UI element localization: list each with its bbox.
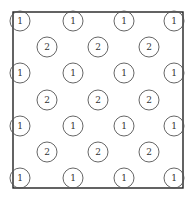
node-label: 2 (44, 95, 50, 105)
node-2: 2 (139, 37, 159, 57)
node-label: 2 (146, 147, 152, 157)
node-1: 1 (164, 11, 184, 31)
node-1: 1 (63, 168, 83, 188)
node-1: 1 (63, 116, 83, 136)
node-1: 1 (164, 116, 184, 136)
node-label: 2 (95, 147, 101, 157)
node-label: 2 (44, 42, 50, 52)
node-label: 1 (121, 173, 127, 183)
node-label: 1 (17, 173, 23, 183)
node-2: 2 (139, 142, 159, 162)
node-label: 2 (146, 95, 152, 105)
node-2: 2 (88, 142, 108, 162)
node-label: 1 (171, 173, 177, 183)
node-1: 1 (114, 116, 134, 136)
node-label: 1 (17, 16, 23, 26)
node-label: 1 (171, 121, 177, 131)
node-1: 1 (114, 168, 134, 188)
node-2: 2 (88, 37, 108, 57)
node-label: 1 (171, 16, 177, 26)
node-1: 1 (114, 11, 134, 31)
node-label: 1 (17, 121, 23, 131)
node-label: 2 (44, 147, 50, 157)
node-label: 1 (171, 68, 177, 78)
node-2: 2 (37, 142, 57, 162)
node-label: 1 (121, 68, 127, 78)
node-label: 1 (121, 16, 127, 26)
node-label: 1 (121, 121, 127, 131)
lattice-diagram: 1111222111122211112221111 (0, 0, 195, 201)
node-1: 1 (164, 63, 184, 83)
node-label: 1 (70, 68, 76, 78)
node-group: 1111222111122211112221111 (10, 11, 184, 188)
node-2: 2 (37, 37, 57, 57)
node-label: 1 (70, 121, 76, 131)
node-label: 1 (17, 68, 23, 78)
node-2: 2 (139, 90, 159, 110)
node-2: 2 (88, 90, 108, 110)
node-label: 2 (95, 95, 101, 105)
node-label: 1 (70, 173, 76, 183)
node-2: 2 (37, 90, 57, 110)
node-label: 1 (70, 16, 76, 26)
node-1: 1 (114, 63, 134, 83)
node-1: 1 (63, 63, 83, 83)
node-1: 1 (63, 11, 83, 31)
node-label: 2 (95, 42, 101, 52)
node-1: 1 (164, 168, 184, 188)
node-label: 2 (146, 42, 152, 52)
